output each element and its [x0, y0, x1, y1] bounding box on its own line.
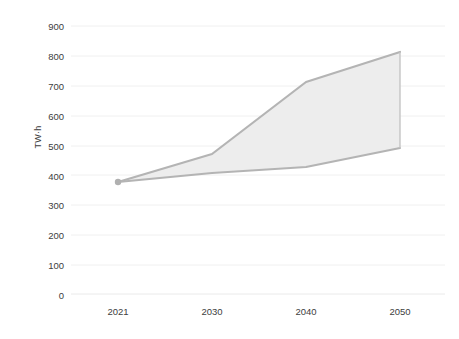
x-tick-label: 2050	[389, 307, 410, 317]
x-tick-label: 2030	[201, 307, 222, 317]
x-axis-tick-labels: 2021 2030 2040 2050	[0, 0, 459, 339]
chart-container: TW·h 900 800 700 600 500 400 300 200 100…	[0, 0, 459, 339]
x-tick-label: 2040	[295, 307, 316, 317]
x-tick-label: 2021	[107, 307, 128, 317]
